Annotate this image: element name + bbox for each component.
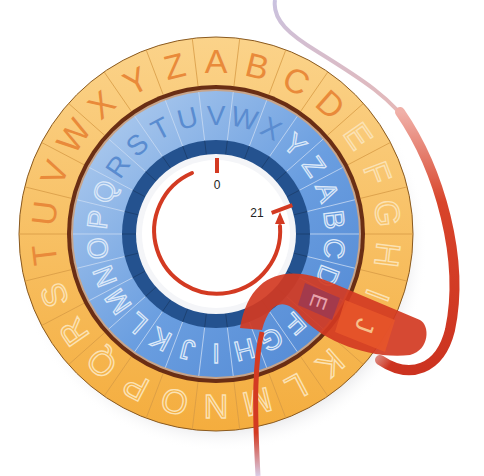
ring-letter-g: G — [367, 198, 408, 229]
ring-letter-a: A — [205, 42, 228, 80]
ring-letter-c: C — [318, 236, 351, 260]
ring-letter-v: V — [207, 100, 226, 131]
ring-letter-b: B — [318, 209, 351, 231]
ring-letter-u: U — [24, 199, 65, 228]
ring-letter-n: N — [204, 388, 229, 426]
ring-letter-h: H — [367, 240, 408, 269]
end-marker-label: 21 — [250, 206, 264, 220]
ring-letter-p: P — [81, 209, 114, 231]
ring-letter-o: O — [81, 236, 114, 261]
start-marker-label: 0 — [214, 178, 221, 192]
ring-letter-i: I — [212, 338, 220, 369]
start-marker — [215, 158, 219, 173]
cipher-wheel-diagram: ABCDEFGHIKLMNOPQRSTUVWXYZ ABCDFGHIJKLMNO… — [0, 0, 484, 476]
